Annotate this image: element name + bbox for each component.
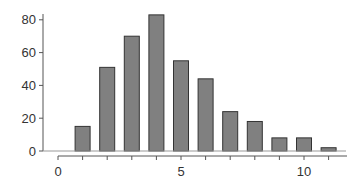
- y-tick-label: 20: [22, 111, 36, 126]
- x-tick-label: 5: [177, 164, 184, 179]
- bar: [174, 61, 189, 151]
- bar: [297, 138, 312, 151]
- bar: [247, 121, 262, 151]
- bar: [124, 36, 139, 151]
- bar: [198, 79, 213, 151]
- bar-chart: 020406080 0510: [0, 0, 363, 187]
- y-tick-label: 80: [22, 12, 36, 27]
- bars: [75, 15, 336, 151]
- y-tick-label: 0: [29, 144, 36, 159]
- y-tick-label: 60: [22, 45, 36, 60]
- bar: [223, 112, 238, 151]
- x-axis: 0510: [54, 156, 347, 179]
- bar: [272, 138, 287, 151]
- x-tick-label: 0: [54, 164, 61, 179]
- x-tick-label: 10: [297, 164, 311, 179]
- bar: [100, 67, 115, 151]
- bar: [75, 126, 90, 151]
- bar: [149, 15, 164, 151]
- y-tick-label: 40: [22, 78, 36, 93]
